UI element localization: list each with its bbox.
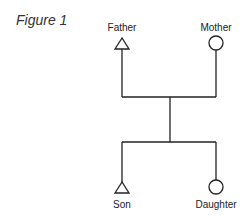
father-triangle-icon [115,38,129,49]
daughter-circle-icon [209,180,223,194]
mother-circle-icon [209,36,223,50]
family-tree-diagram [0,0,250,216]
son-triangle-icon [115,182,129,193]
